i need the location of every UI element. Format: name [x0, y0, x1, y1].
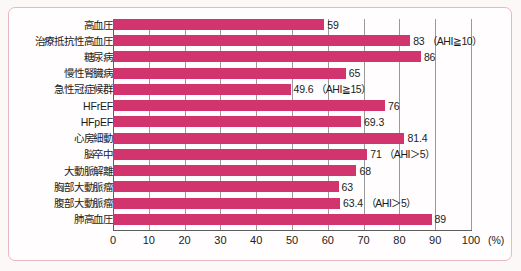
- category-label: 胸部大動脈瘤: [0, 182, 113, 193]
- bar: [113, 19, 324, 30]
- x-tick-label: 30: [200, 234, 240, 247]
- category-label: 慢性腎臓病: [0, 68, 113, 79]
- value-number: 89: [435, 213, 446, 225]
- x-tick-label: 50: [272, 234, 312, 247]
- value-number: 59: [327, 19, 338, 31]
- value-annotation: （AHI＞5）: [363, 197, 416, 209]
- bar: [113, 35, 410, 46]
- x-tick-label: 70: [344, 234, 384, 247]
- bar: [113, 116, 361, 127]
- bar: [113, 214, 432, 225]
- value-label: 49.6 （AHI≧15）: [294, 84, 371, 95]
- bar: [113, 68, 346, 79]
- value-label: 86: [424, 52, 435, 63]
- value-annotation: （AHI≧15）: [314, 83, 371, 95]
- value-label: 59: [327, 20, 338, 31]
- chart-card: 高血圧治療抵抗性高血圧糖尿病慢性腎臓病急性冠症候群HFrEFHFpEF心房細動脳…: [8, 7, 512, 261]
- bar: [113, 165, 356, 176]
- value-label: 65: [349, 68, 360, 79]
- category-label: 脳卒中: [0, 149, 113, 160]
- category-label: 糖尿病: [0, 52, 113, 63]
- value-number: 68: [359, 165, 370, 177]
- value-label: 69.3: [364, 117, 384, 128]
- x-tick-label: 100: [451, 234, 491, 247]
- bar: [113, 149, 367, 160]
- bar: [113, 133, 404, 144]
- x-axis-line: [113, 230, 472, 231]
- category-label: HFrEF: [0, 101, 113, 112]
- value-label: 63.4 （AHI＞5）: [343, 198, 416, 209]
- category-label: HFpEF: [0, 117, 113, 128]
- bar-chart-plot-area: 高血圧治療抵抗性高血圧糖尿病慢性腎臓病急性冠症候群HFrEFHFpEF心房細動脳…: [9, 8, 513, 262]
- bar: [113, 198, 340, 209]
- value-number: 81.4: [407, 132, 427, 144]
- x-tick-label: 60: [308, 234, 348, 247]
- value-number: 49.6: [294, 83, 314, 95]
- bar: [113, 181, 339, 192]
- value-number: 76: [388, 100, 399, 112]
- x-tick-label: 20: [165, 234, 205, 247]
- bar: [113, 51, 421, 62]
- value-label: 81.4: [407, 133, 427, 144]
- value-number: 63: [342, 181, 353, 193]
- value-label: 68: [359, 166, 370, 177]
- value-annotation: （AHI≧10）: [425, 35, 482, 47]
- x-tick-label: 0: [93, 234, 133, 247]
- category-label: 大動脈解離: [0, 166, 113, 177]
- value-label: 89: [435, 214, 446, 225]
- x-tick-label: 40: [236, 234, 276, 247]
- value-number: 83: [413, 35, 424, 47]
- category-label: 腹部大動脈瘤: [0, 198, 113, 209]
- value-label: 83 （AHI≧10）: [413, 36, 482, 47]
- gridline-100: [471, 19, 472, 230]
- x-tick-label: 80: [379, 234, 419, 247]
- x-axis-unit-label: (%): [488, 234, 504, 247]
- category-label: 高血圧: [0, 20, 113, 31]
- category-label: 心房細動: [0, 133, 113, 144]
- value-number: 63.4: [343, 197, 363, 209]
- x-tick-label: 90: [415, 234, 455, 247]
- value-label: 63: [342, 182, 353, 193]
- value-number: 71: [370, 148, 381, 160]
- bar: [113, 84, 291, 95]
- category-label: 急性冠症候群: [0, 84, 113, 95]
- bar: [113, 100, 385, 111]
- x-tick-label: 10: [129, 234, 169, 247]
- value-number: 69.3: [364, 116, 384, 128]
- value-annotation: （AHI＞5）: [382, 148, 435, 160]
- value-number: 86: [424, 51, 435, 63]
- value-label: 76: [388, 101, 399, 112]
- category-label: 肺高血圧: [0, 214, 113, 225]
- value-label: 71 （AHI＞5）: [370, 149, 435, 160]
- value-number: 65: [349, 67, 360, 79]
- category-label: 治療抵抗性高血圧: [0, 36, 113, 47]
